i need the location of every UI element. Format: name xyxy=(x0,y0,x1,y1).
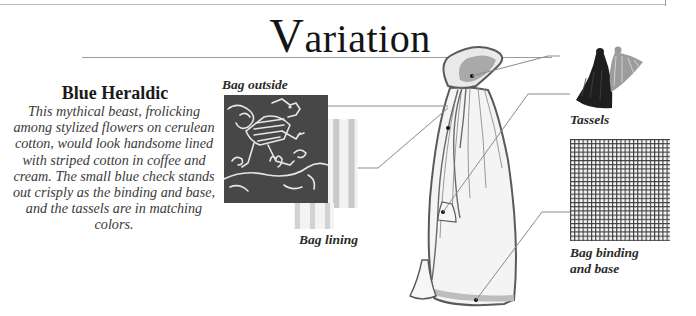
bag-lining-swatch-lower xyxy=(294,203,334,229)
top-rule xyxy=(0,4,665,5)
top-rule-tick xyxy=(665,0,666,6)
variation-description: This mythical beast, frolicking among st… xyxy=(8,103,220,233)
title-initial: V xyxy=(269,9,304,62)
label-bag-lining: Bag lining xyxy=(299,232,358,248)
variation-heading: Blue Heraldic xyxy=(26,83,204,104)
bag-outside-swatch xyxy=(224,95,328,203)
bag-drawing xyxy=(400,40,590,316)
label-bag-outside: Bag outside xyxy=(222,77,288,93)
